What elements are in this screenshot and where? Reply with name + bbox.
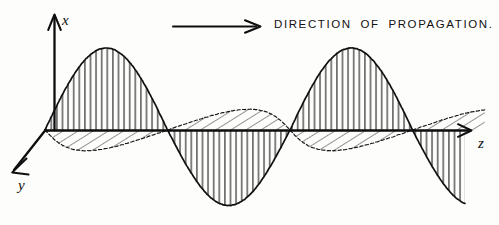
y-axis: y <box>12 130 45 193</box>
z-axis-label: z <box>477 135 484 151</box>
y-axis-label: y <box>16 177 25 193</box>
x-axis-label: x <box>61 12 69 28</box>
propagation-caption: DIRECTION OF PROPAGATION. <box>274 18 493 30</box>
figure-root: z x y DIRECTION OF PROPAGATION. <box>0 0 499 225</box>
right-arrow-icon <box>173 20 261 32</box>
em-wave-diagram: z x y <box>0 0 499 225</box>
